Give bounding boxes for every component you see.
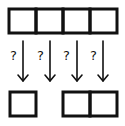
bottom-row-boxes: [10, 92, 117, 116]
question-mark-2: ?: [37, 49, 44, 62]
top-box-4: [90, 9, 117, 33]
question-mark-3: ?: [63, 49, 70, 62]
bottom-pair-box-2: [90, 92, 117, 116]
top-row-boxes: [9, 9, 117, 33]
top-box-1: [9, 9, 36, 33]
arrow-4: [98, 41, 108, 81]
arrow-1: [18, 41, 28, 81]
arrow-2: [45, 41, 55, 81]
bottom-pair-box-1: [63, 92, 90, 116]
arrow-3: [72, 41, 82, 81]
question-mark-4: ?: [90, 49, 97, 62]
bottom-single-box: [10, 92, 36, 116]
top-box-3: [63, 9, 90, 33]
question-mark-1: ?: [10, 49, 17, 62]
top-box-2: [36, 9, 63, 33]
diagram-canvas: [0, 0, 125, 126]
